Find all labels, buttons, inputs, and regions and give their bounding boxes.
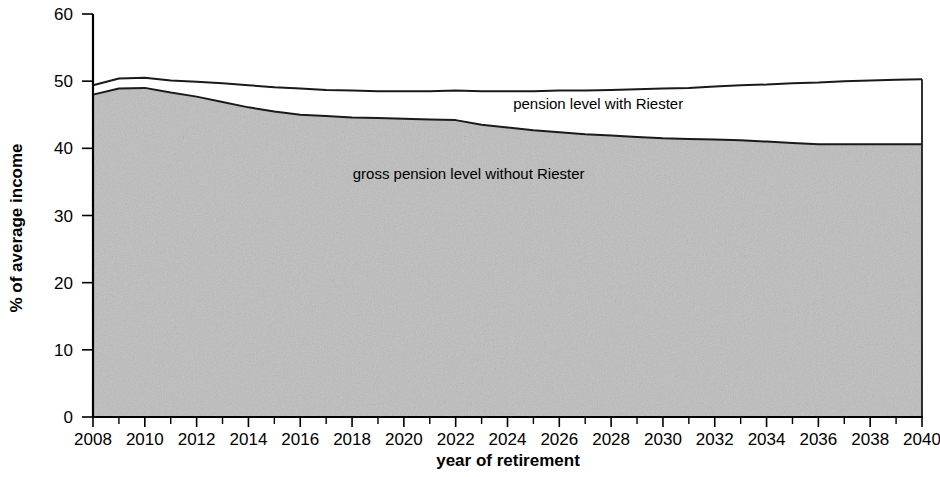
y-axis-tick-label: 60 xyxy=(54,5,73,24)
y-axis-tick-label: 10 xyxy=(54,341,73,360)
x-axis-tick-label: 2032 xyxy=(696,430,734,449)
area-chart: 0102030405060 20082010201220142016201820… xyxy=(0,0,940,477)
x-axis-title: year of retirement xyxy=(436,451,580,470)
x-axis-tick-label: 2012 xyxy=(178,430,216,449)
x-axis-tick-label: 2014 xyxy=(230,430,268,449)
y-axis-tick-label: 40 xyxy=(54,139,73,158)
x-axis-tick-label: 2022 xyxy=(437,430,475,449)
x-axis-tick-label: 2030 xyxy=(644,430,682,449)
x-axis-tick-labels: 2008201020122014201620182020202220242026… xyxy=(74,430,940,449)
x-axis-tick-label: 2040 xyxy=(903,430,940,449)
x-axis-tick-label: 2016 xyxy=(281,430,319,449)
x-axis-tick-label: 2018 xyxy=(333,430,371,449)
y-axis-tick-label: 50 xyxy=(54,72,73,91)
x-axis-tick-label: 2010 xyxy=(126,430,164,449)
y-axis-tick-label: 30 xyxy=(54,207,73,226)
y-axis-title: % of average income xyxy=(7,143,26,312)
x-axis-tick-label: 2036 xyxy=(799,430,837,449)
annotation-pension-level-with-riester: pension level with Riester xyxy=(513,95,683,112)
annotation-gross-pension-level-without-riester: gross pension level without Riester xyxy=(353,165,585,182)
x-axis-tick-label: 2034 xyxy=(748,430,786,449)
x-axis-tick-label: 2024 xyxy=(489,430,527,449)
x-axis-tick-label: 2020 xyxy=(385,430,423,449)
x-axis-tick-label: 2008 xyxy=(74,430,112,449)
x-axis-tick-label: 2028 xyxy=(592,430,630,449)
y-axis-tick-label: 20 xyxy=(54,274,73,293)
x-axis-tick-label: 2026 xyxy=(540,430,578,449)
y-axis-tick-label: 0 xyxy=(64,408,73,427)
chart-container: 0102030405060 20082010201220142016201820… xyxy=(0,0,940,477)
x-axis-tick-label: 2038 xyxy=(851,430,889,449)
